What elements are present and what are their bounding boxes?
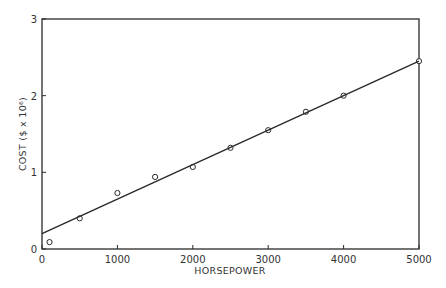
x-tick-label: 3000 <box>255 254 280 265</box>
y-axis-title: COST ($ x 10⁶) <box>17 97 28 171</box>
regression-line <box>42 61 419 234</box>
y-tick-label: 0 <box>31 244 37 255</box>
cost-vs-horsepower-chart: 010002000300040005000 0123 HORSEPOWER CO… <box>0 0 446 288</box>
x-tick-label: 0 <box>39 254 45 265</box>
data-point <box>115 190 120 195</box>
plot-series <box>42 59 422 245</box>
y-tick-label: 2 <box>31 91 37 102</box>
data-point <box>153 174 158 179</box>
plot-frame <box>42 19 419 249</box>
y-tick-label: 3 <box>31 14 37 25</box>
x-axis: 010002000300040005000 <box>39 245 432 265</box>
data-point <box>47 240 52 245</box>
x-tick-label: 5000 <box>406 254 431 265</box>
y-tick-label: 1 <box>31 167 37 178</box>
plot-border <box>42 19 419 249</box>
y-axis: 0123 <box>31 14 46 255</box>
x-axis-title: HORSEPOWER <box>194 265 266 276</box>
x-tick-label: 1000 <box>105 254 130 265</box>
x-tick-label: 2000 <box>180 254 205 265</box>
x-tick-label: 4000 <box>331 254 356 265</box>
